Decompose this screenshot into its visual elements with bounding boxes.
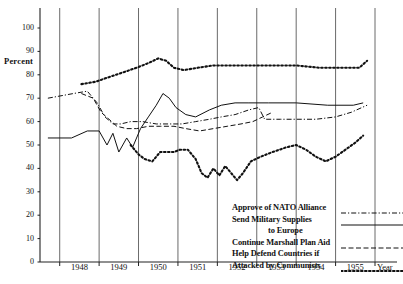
legend-line-sample [341, 259, 403, 261]
legend-row: Help Defend Countries if [232, 242, 403, 254]
legend-row: Attacked by Communists [232, 254, 403, 266]
legend-row: Send Military Supplies [232, 208, 403, 220]
legend-line-sample [341, 236, 403, 238]
legend-row: Approve of NATO Alliance [232, 196, 403, 208]
series-line [131, 136, 364, 180]
chart-legend: Approve of NATO AllianceSend Military Su… [232, 196, 403, 265]
legend-label: Attacked by Communists [232, 261, 321, 270]
series-line [81, 94, 272, 131]
legend-line-sample [341, 213, 403, 215]
legend-row: Continue Marshall Plan Aid [232, 231, 403, 243]
series-line [81, 58, 367, 84]
legend-line-sample [341, 201, 403, 203]
chart-root: Percent 0102030405060708090100 194819491… [0, 0, 403, 284]
data-series-group [48, 58, 367, 180]
legend-row: to Europe [232, 219, 403, 231]
series-line [48, 91, 367, 124]
